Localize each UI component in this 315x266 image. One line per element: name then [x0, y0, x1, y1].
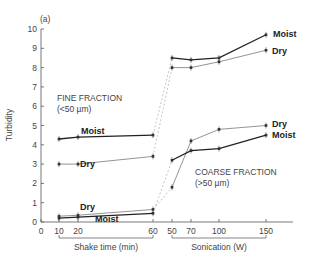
y-tick-label: 3	[32, 159, 37, 169]
y-tick-label: 5	[32, 121, 37, 131]
y-tick-label: 8	[32, 63, 37, 73]
x-tick-label: 20	[73, 226, 83, 236]
x-segment-label: Shake time (min)	[74, 242, 138, 252]
series-end-label: Moist	[272, 130, 296, 140]
group-subtitle-coarse: (>50 µm)	[195, 178, 230, 188]
x-tick-label: 70	[186, 226, 196, 236]
series-line	[59, 156, 153, 164]
y-tick-label: 0	[32, 217, 37, 227]
x-tick-label: 150	[259, 226, 273, 236]
series-label: Dry	[80, 159, 95, 169]
series-end-label: Dry	[272, 46, 287, 56]
series-end-label: Moist	[273, 29, 297, 39]
series-line	[59, 135, 153, 139]
y-axis-label: Turbidity	[4, 108, 14, 141]
series-connector	[153, 187, 172, 209]
turbidity-chart: 01234567891001020605070100150Shake time …	[0, 0, 315, 266]
panel-label: (a)	[40, 14, 51, 24]
group-label-coarse: COARSE FRACTION	[195, 167, 277, 177]
x-tick-label: 60	[148, 226, 158, 236]
group-subtitle-fine: (<50 µm)	[57, 104, 92, 114]
group-label-fine: FINE FRACTION	[57, 93, 122, 103]
y-tick-label: 10	[28, 24, 38, 34]
series-label: Dry	[80, 202, 95, 212]
x-tick-label: 50	[167, 226, 177, 236]
y-tick-label: 2	[32, 178, 37, 188]
y-tick-label: 6	[32, 101, 37, 111]
x-tick-label: 0	[39, 226, 44, 236]
y-tick-label: 7	[32, 82, 37, 92]
series-label: Moist	[95, 214, 119, 224]
y-tick-label: 9	[32, 43, 37, 53]
y-tick-label: 1	[32, 198, 37, 208]
series-label: Moist	[81, 126, 105, 136]
chart-canvas: 01234567891001020605070100150Shake time …	[0, 0, 315, 266]
series-connector	[153, 58, 172, 135]
y-tick-label: 4	[32, 140, 37, 150]
series-connector	[153, 68, 172, 157]
x-segment-label: Sonication (W)	[191, 242, 247, 252]
series-end-label: Dry	[272, 119, 287, 129]
series-connector	[153, 160, 172, 213]
x-tick-label: 10	[54, 226, 64, 236]
x-tick-label: 100	[212, 226, 226, 236]
